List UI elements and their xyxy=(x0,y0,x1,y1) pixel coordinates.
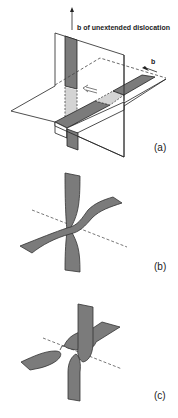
vertical-ribbon-lower xyxy=(68,354,80,401)
burgers-label: b xyxy=(151,58,155,65)
vertical-ribbon-upper xyxy=(65,36,77,89)
panel-b-label: (b) xyxy=(154,261,166,272)
vertical-ribbon-upper xyxy=(78,304,93,362)
panel-c-label: (c) xyxy=(154,390,166,401)
inclined-ribbon-lower-left xyxy=(21,351,61,370)
jog-connector xyxy=(60,346,64,350)
panel-c-diagram xyxy=(21,304,122,401)
panel-a-label: (a) xyxy=(154,142,166,153)
burgers-unextended-label: b of unextended dislocation xyxy=(77,24,170,31)
panel-b-diagram xyxy=(20,173,127,272)
